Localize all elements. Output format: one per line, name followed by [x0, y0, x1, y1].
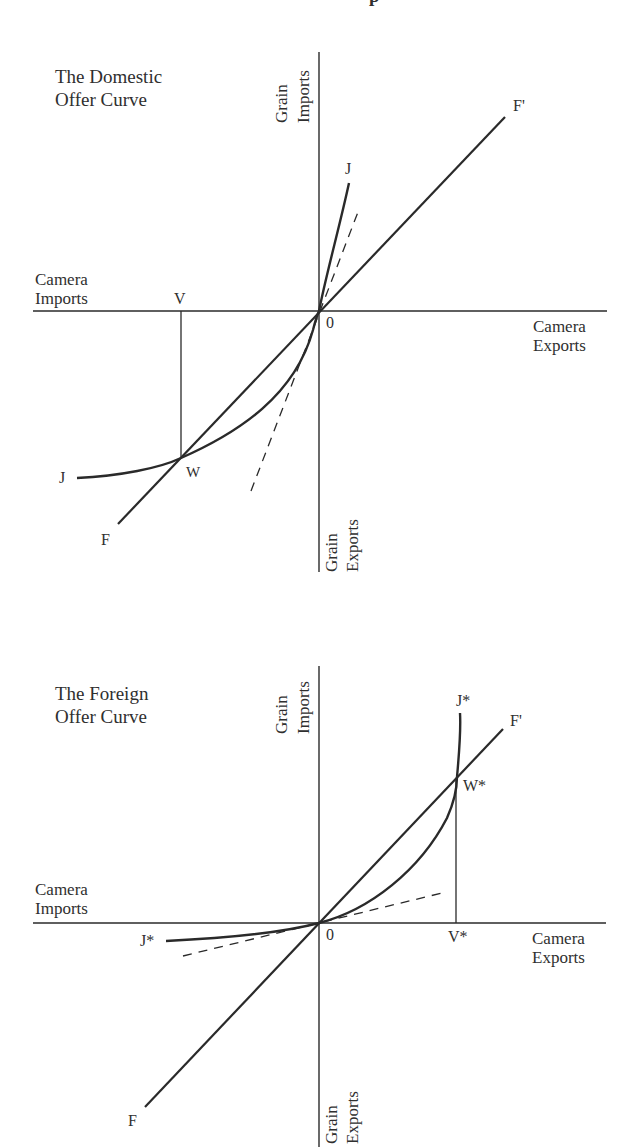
foreign-intersection-label-W-star: W* — [463, 777, 486, 795]
foreign-tangent-dashed — [183, 893, 442, 956]
domestic-x-axis-left-label-line1: Camera — [35, 271, 88, 289]
domestic-tangent-dashed — [251, 212, 358, 491]
foreign-ray-label-F: F — [128, 1112, 137, 1130]
foreign-title-line2: Offer Curve — [55, 706, 147, 728]
domestic-x-axis-right-label-line1: Camera — [533, 318, 586, 336]
domestic-intersection-label-W: W — [186, 463, 200, 481]
domestic-y-axis-bottom-label-line2: Exports — [344, 519, 361, 572]
foreign-terms-of-trade-ray — [145, 729, 503, 1107]
foreign-projection-label-V-star: V* — [448, 928, 468, 946]
domestic-offer-curve-J — [77, 183, 349, 478]
foreign-y-axis-bottom-label-line2: Exports — [344, 1091, 361, 1144]
foreign-curve-label-J-star-upper: J* — [456, 692, 470, 710]
foreign-title-line1: The Foreign — [55, 683, 148, 705]
foreign-x-axis-right-label-line1: Camera — [532, 930, 585, 948]
offer-curves-diagram — [0, 0, 641, 1147]
domestic-y-axis-top-label-line1: Grain — [273, 84, 290, 123]
foreign-curve-label-J-star-lower: J* — [140, 932, 154, 950]
foreign-offer-curve-plot — [33, 666, 606, 1147]
foreign-y-axis-top-label-line1: Grain — [273, 695, 290, 734]
foreign-x-axis-left-label-line2: Imports — [35, 900, 88, 918]
foreign-origin-label: 0 — [326, 926, 334, 944]
domestic-curve-label-J-upper: J — [345, 160, 351, 178]
domestic-title-line2: Offer Curve — [55, 89, 147, 111]
cropped-heading-fragment: p — [369, 0, 380, 5]
domestic-offer-curve-plot — [33, 52, 607, 572]
domestic-title-line1: The Domestic — [55, 66, 162, 88]
domestic-ray-label-F: F — [101, 531, 110, 549]
foreign-x-axis-left-label-line1: Camera — [35, 881, 88, 899]
domestic-x-axis-right-label-line2: Exports — [533, 337, 586, 355]
domestic-curve-label-J-lower: J — [59, 469, 65, 487]
domestic-terms-of-trade-ray — [118, 117, 505, 524]
foreign-x-axis-right-label-line2: Exports — [532, 949, 585, 967]
domestic-ray-label-F-prime: F' — [513, 97, 525, 115]
domestic-projection-label-V: V — [174, 290, 186, 308]
domestic-y-axis-bottom-label-line1: Grain — [323, 533, 340, 572]
domestic-y-axis-top-label-line2: Imports — [295, 70, 312, 123]
foreign-offer-curve-J-star — [166, 713, 460, 941]
domestic-origin-label: 0 — [326, 314, 334, 332]
foreign-ray-label-F-prime: F' — [510, 712, 522, 730]
foreign-y-axis-top-label-line2: Imports — [295, 681, 312, 734]
domestic-x-axis-left-label-line2: Imports — [35, 290, 88, 308]
foreign-y-axis-bottom-label-line1: Grain — [323, 1105, 340, 1144]
